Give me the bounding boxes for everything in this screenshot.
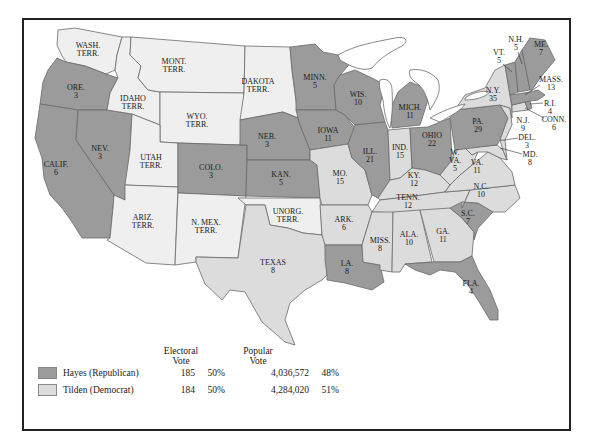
svg-text:TERR.: TERR.: [77, 49, 99, 58]
svg-text:TERR.: TERR.: [186, 120, 208, 129]
svg-text:5: 5: [313, 81, 317, 90]
svg-text:5: 5: [279, 178, 283, 187]
svg-text:8: 8: [528, 158, 532, 167]
svg-text:15: 15: [336, 177, 344, 186]
legend-name: Tilden (Democrat): [63, 385, 171, 395]
svg-text:15: 15: [396, 151, 404, 160]
svg-text:13: 13: [547, 83, 555, 92]
popular-votes: 4,036,572: [243, 368, 309, 378]
legend: Electoral Vote Popular Vote Hayes (Repub…: [38, 346, 338, 406]
svg-text:12: 12: [410, 179, 418, 188]
region-fla[interactable]: [405, 256, 498, 320]
svg-text:3: 3: [209, 171, 213, 180]
svg-text:7: 7: [539, 48, 543, 57]
electoral-votes: 185: [171, 368, 195, 378]
svg-text:10: 10: [354, 98, 362, 107]
svg-text:21: 21: [366, 155, 374, 164]
svg-text:4: 4: [469, 287, 473, 296]
svg-text:5: 5: [497, 56, 501, 65]
svg-text:10: 10: [405, 238, 413, 247]
svg-text:10: 10: [477, 190, 485, 199]
svg-text:3: 3: [98, 152, 102, 161]
lake-superior: [338, 37, 406, 69]
electoral-pct: 50%: [195, 385, 225, 395]
svg-text:11: 11: [324, 134, 332, 143]
leader-ri: [530, 103, 543, 104]
svg-text:TERR.: TERR.: [247, 85, 269, 94]
svg-text:5: 5: [453, 164, 457, 173]
svg-text:5: 5: [514, 43, 518, 52]
svg-text:4: 4: [548, 107, 552, 116]
svg-text:6: 6: [54, 168, 58, 177]
svg-text:6: 6: [342, 223, 346, 232]
legend-electoral-header: Electoral Vote: [156, 346, 206, 366]
svg-text:3: 3: [525, 141, 529, 150]
svg-text:7: 7: [466, 217, 470, 226]
svg-text:11: 11: [439, 235, 447, 244]
legend-row-hayes: Hayes (Republican) 185 50% 4,036,572 48%: [38, 366, 339, 380]
popular-pct: 48%: [309, 368, 339, 378]
svg-text:TERR.: TERR.: [195, 226, 217, 235]
svg-text:11: 11: [473, 166, 481, 175]
svg-text:8: 8: [271, 266, 275, 275]
svg-text:11: 11: [406, 111, 414, 120]
svg-text:TERR.: TERR.: [277, 215, 299, 224]
svg-text:TERR.: TERR.: [140, 161, 162, 170]
svg-text:9: 9: [521, 124, 525, 133]
swatch-hayes: [38, 367, 57, 379]
region-kan[interactable]: [246, 160, 320, 198]
svg-text:29: 29: [474, 125, 482, 134]
legend-row-tilden: Tilden (Democrat) 184 50% 4,284,020 51%: [38, 383, 339, 397]
legend-name: Hayes (Republican): [63, 368, 171, 378]
svg-text:3: 3: [265, 140, 269, 149]
svg-text:3: 3: [74, 91, 78, 100]
svg-text:TERR.: TERR.: [132, 221, 154, 230]
svg-text:8: 8: [378, 244, 382, 253]
electoral-votes: 184: [171, 385, 195, 395]
electoral-pct: 50%: [195, 368, 225, 378]
svg-text:TERR.: TERR.: [163, 65, 185, 74]
legend-popular-header: Popular Vote: [228, 346, 288, 366]
svg-text:6: 6: [552, 123, 556, 132]
region-mont[interactable]: [130, 37, 245, 93]
svg-text:8: 8: [345, 267, 349, 276]
svg-text:12: 12: [404, 201, 412, 210]
leader-del: [505, 138, 518, 140]
swatch-tilden: [38, 384, 57, 396]
popular-votes: 4,284,020: [243, 385, 309, 395]
popular-pct: 51%: [309, 385, 339, 395]
svg-text:TERR.: TERR.: [122, 102, 144, 111]
svg-text:35: 35: [489, 94, 497, 103]
svg-text:22: 22: [428, 139, 436, 148]
